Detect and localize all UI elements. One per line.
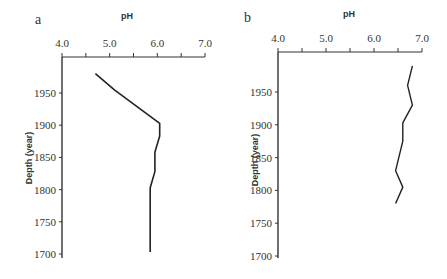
panel-a-y-axis-title: Depth (year) [24,132,34,185]
panel-b-x-axis: 4.05.06.07.0 [271,32,429,52]
panel-b-x-axis-title: pH [343,9,355,19]
panel-a-x-axis-title: pH [121,11,133,21]
y-tick-label: 1900 [250,119,273,131]
panel-a-label: a [35,12,42,27]
x-tick-label: 6.0 [367,32,381,44]
x-tick-label: 7.0 [198,37,212,49]
x-tick-label: 6.0 [150,37,164,49]
panel-b-data-line [396,66,413,204]
y-tick-label: 1750 [250,217,273,229]
x-tick-label: 4.0 [271,32,285,44]
panel-a: a pH Depth (year) 4.05.06.07.0 195019001… [24,11,212,260]
y-tick-label: 1700 [250,250,273,262]
panel-a-data-line [95,74,159,252]
x-tick-label: 5.0 [103,37,117,49]
y-tick-label: 1750 [34,216,57,228]
y-tick-label: 1850 [34,151,57,163]
y-tick-label: 1850 [250,152,273,164]
chart-canvas: a pH Depth (year) 4.05.06.07.0 195019001… [0,0,447,279]
x-tick-label: 5.0 [319,32,333,44]
y-tick-label: 1800 [250,184,273,196]
y-tick-label: 1800 [34,184,57,196]
y-tick-label: 1700 [34,248,57,260]
x-tick-label: 7.0 [415,32,429,44]
y-tick-label: 1900 [34,119,57,131]
y-tick-label: 1950 [250,86,273,98]
y-tick-label: 1950 [34,87,57,99]
panel-a-x-axis: 4.05.06.07.0 [55,37,212,57]
x-tick-label: 4.0 [55,37,69,49]
panel-b-y-axis: 195019001850180017501700 [250,52,278,262]
panel-b: b pH Depth (year) 4.05.06.07.0 195019001… [244,9,429,262]
panel-a-y-axis: 195019001850180017501700 [34,57,62,260]
panel-b-label: b [244,10,251,25]
